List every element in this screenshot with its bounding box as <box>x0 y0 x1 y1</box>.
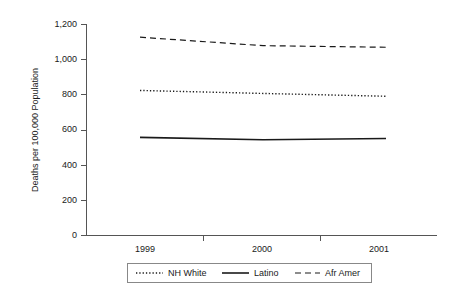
line-chart-figure: Deaths per 100,000 Population 1,200 1,00… <box>0 0 457 296</box>
x-tick-label-2001: 2001 <box>369 244 389 254</box>
y-tick-label-400: 400 <box>62 160 77 170</box>
legend-label-latino: Latino <box>254 268 279 278</box>
y-axis-ticks: 1,200 1,000 800 600 400 200 0 <box>54 19 86 240</box>
chart-legend: NH White Latino Afr Amer <box>128 264 372 283</box>
series-line-latino <box>140 137 386 139</box>
y-tick-label-0: 0 <box>72 230 77 240</box>
y-axis-title: Deaths per 100,000 Population <box>30 68 40 192</box>
series-group <box>140 37 386 140</box>
series-line-afr-amer <box>140 37 386 47</box>
x-tick-label-1999: 1999 <box>135 244 155 254</box>
series-line-nh-white <box>140 90 386 96</box>
y-tick-label-1200: 1,200 <box>54 19 77 29</box>
y-tick-label-1000: 1,000 <box>54 54 77 64</box>
chart-canvas: Deaths per 100,000 Population 1,200 1,00… <box>0 0 457 296</box>
y-tick-label-600: 600 <box>62 124 77 134</box>
y-tick-label-800: 800 <box>62 89 77 99</box>
legend-label-nh-white: NH White <box>168 268 207 278</box>
x-axis-ticks: 1999 2000 2001 <box>135 236 389 255</box>
legend-label-afr-amer: Afr Amer <box>325 268 360 278</box>
y-tick-label-200: 200 <box>62 195 77 205</box>
x-tick-label-2000: 2000 <box>252 244 272 254</box>
